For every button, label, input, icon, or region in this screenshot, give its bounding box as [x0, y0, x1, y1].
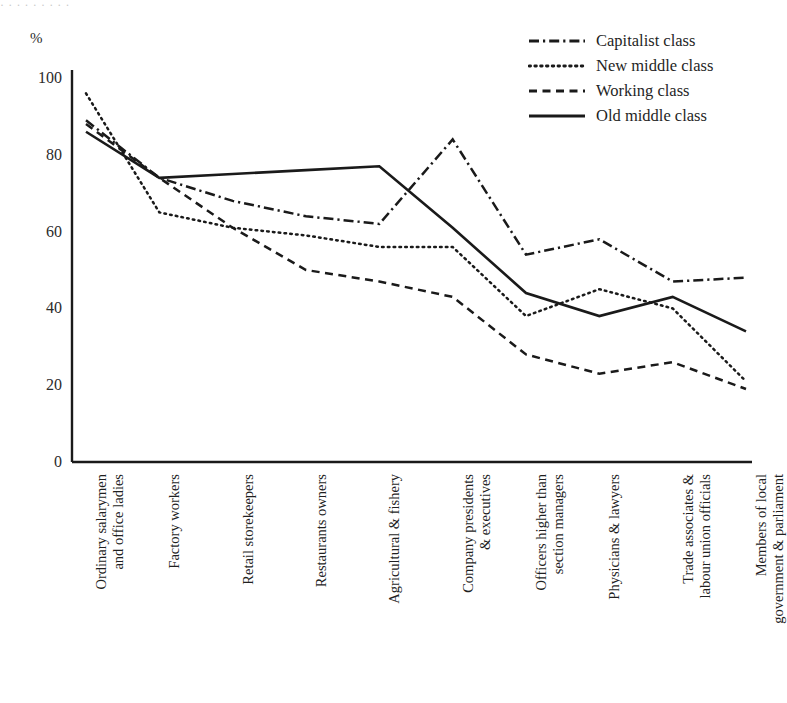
legend-label: Old middle class — [596, 106, 707, 126]
x-tick-label-physicians-lawyers: Physicians & lawyers — [606, 474, 623, 694]
legend-label: Working class — [596, 81, 690, 101]
x-tick-label-trade-associates-labour-union-officials: Trade associates & labour union official… — [680, 474, 714, 694]
legend-key-working-class — [528, 84, 586, 98]
x-tick-label-factory-workers: Factory workers — [166, 474, 183, 694]
legend-key-capitalist-class — [528, 34, 586, 48]
x-tick-label-members-of-local-government-parliament: Members of local government & parliament — [753, 474, 787, 694]
legend-item-working-class: Working class — [528, 78, 778, 103]
legend-label: Capitalist class — [596, 31, 695, 51]
legend-item-old-middle-class: Old middle class — [528, 103, 778, 128]
legend-key-old-middle-class — [528, 109, 586, 123]
x-tick-label-company-presidents-executives: Company presidents & executives — [460, 474, 494, 694]
legend-item-new-middle-class: New middle class — [528, 53, 778, 78]
legend-item-capitalist-class: Capitalist class — [528, 28, 778, 53]
chart-legend: Capitalist classNew middle classWorking … — [528, 28, 778, 128]
x-tick-label-restaurants-owners: Restaurants owners — [313, 474, 330, 694]
x-tick-label-retail-storekeepers: Retail storekeepers — [240, 474, 257, 694]
legend-label: New middle class — [596, 56, 713, 76]
legend-key-new-middle-class — [528, 59, 586, 73]
x-tick-label-ordinary-salarymen-and-office-ladies: Ordinary salarymen and office ladies — [93, 474, 127, 694]
x-tick-label-agricultural-fishery: Agricultural & fishery — [386, 474, 403, 694]
x-tick-label-officers-higher-than-section-managers: Officers higher than section managers — [533, 474, 567, 694]
